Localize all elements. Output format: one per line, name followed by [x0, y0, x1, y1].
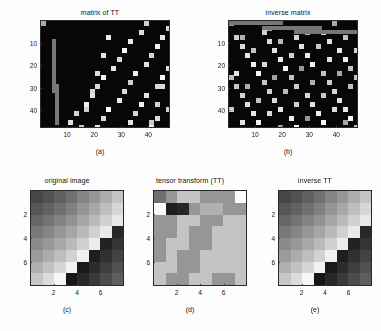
heatmap-cell: [166, 215, 177, 226]
heatmap-cell: [43, 273, 54, 285]
y-tick-mark: [278, 238, 280, 239]
heatmap-cell: [360, 273, 371, 285]
heatmap-cell: [200, 250, 212, 262]
heatmap-cell: [279, 203, 291, 215]
heatmap-cell: [77, 273, 89, 285]
heatmap-cell: [337, 262, 348, 273]
heatmap-cell: [77, 215, 89, 226]
heatmap-cell: [360, 203, 371, 215]
heatmap-cell: [212, 203, 223, 215]
heatmap-cell: [154, 203, 166, 215]
heatmap-cell: [302, 273, 314, 285]
heatmap-cell: [112, 215, 123, 226]
heatmap-cell: [235, 226, 246, 238]
heatmap-cell: [31, 226, 43, 238]
heatmap-cell: [325, 273, 337, 285]
x-tick-mark: [200, 284, 201, 286]
heatmap-cell: [223, 191, 235, 203]
heatmap-cell: [89, 226, 100, 238]
y-tick-mark: [228, 43, 230, 44]
heatmap-cell: [291, 273, 302, 285]
heatmap-cell: [291, 226, 302, 238]
heatmap-cell: [66, 238, 77, 250]
y-tick-label: 4: [14, 235, 27, 242]
heatmap-cell: [177, 238, 189, 250]
heatmap-cell: [100, 191, 112, 203]
heatmap-cell: [314, 238, 325, 250]
heatmap-cell: [31, 238, 43, 250]
heatmap-cell: [54, 273, 66, 285]
heatmap-cell: [223, 215, 235, 226]
heatmap-cell: [337, 250, 348, 262]
x-tick-mark: [148, 126, 149, 128]
heatmap-cell: [337, 238, 348, 250]
x-tick-label: 40: [145, 131, 152, 138]
heatmap-cell: [154, 238, 166, 250]
heatmap-cell: [348, 262, 360, 273]
heatmap-cell: [112, 191, 123, 203]
heatmap-cell: [302, 203, 314, 215]
heatmap-cell: [189, 191, 200, 203]
heatmap-cell: [200, 203, 212, 215]
heatmap-cell: [348, 250, 360, 262]
panel-b-heatmap: [229, 21, 358, 128]
heatmap-cell: [89, 262, 100, 273]
heatmap-cell: [212, 273, 223, 285]
heatmap-cell: [77, 238, 89, 250]
x-tick-label: 2: [300, 289, 304, 296]
heatmap-cell: [89, 238, 100, 250]
heatmap-cell: [66, 191, 77, 203]
heatmap-cell: [54, 203, 66, 215]
x-tick-label: 6: [347, 289, 351, 296]
x-tick-mark: [349, 284, 350, 286]
heatmap-cell: [325, 191, 337, 203]
y-tick-mark: [228, 88, 230, 89]
heatmap-cell: [325, 262, 337, 273]
heatmap-cell: [43, 215, 54, 226]
x-tick-mark: [77, 284, 78, 286]
heatmap-cell: [43, 191, 54, 203]
heatmap-cell: [66, 215, 77, 226]
heatmap-cell: [212, 191, 223, 203]
heatmap-cell: [302, 226, 314, 238]
x-tick-mark: [101, 284, 102, 286]
heatmap-cell: [154, 250, 166, 262]
heatmap-cell: [360, 226, 371, 238]
heatmap-cell: [100, 250, 112, 262]
heatmap-cell: [189, 215, 200, 226]
heatmap-cell: [166, 273, 177, 285]
heatmap-cell: [177, 262, 189, 273]
heatmap-cell: [337, 215, 348, 226]
heatmap-cell: [223, 262, 235, 273]
y-tick-label: 2: [14, 211, 27, 218]
x-tick-mark: [282, 126, 283, 128]
heatmap-cell: [100, 203, 112, 215]
heatmap-cell: [66, 226, 77, 238]
heatmap-cell: [279, 191, 291, 203]
x-tick-label: 4: [198, 289, 202, 296]
heatmap-cell: [177, 191, 189, 203]
heatmap-cell: [200, 262, 212, 273]
heatmap-cell: [189, 250, 200, 262]
y-tick-mark: [30, 214, 32, 215]
heatmap-cell: [348, 215, 360, 226]
heatmap-cell: [348, 238, 360, 250]
heatmap-cell: [166, 191, 177, 203]
panel-b: inverse matrix (b) 1020304010203040: [208, 8, 368, 160]
heatmap-cell: [54, 250, 66, 262]
y-tick-mark: [278, 262, 280, 263]
x-tick-label: 2: [52, 289, 56, 296]
y-tick-label: 30: [24, 84, 37, 91]
heatmap-cell: [302, 238, 314, 250]
heatmap-cell: [223, 273, 235, 285]
x-tick-label: 30: [118, 131, 125, 138]
heatmap-cell: [235, 273, 246, 285]
x-tick-label: 4: [75, 289, 79, 296]
heatmap-cell: [337, 226, 348, 238]
x-tick-mark: [121, 126, 122, 128]
panel-e-plot: [278, 190, 372, 286]
heatmap-cell: [291, 215, 302, 226]
heatmap-cell: [43, 238, 54, 250]
y-tick-label: 40: [24, 107, 37, 114]
heatmap-cell: [212, 226, 223, 238]
